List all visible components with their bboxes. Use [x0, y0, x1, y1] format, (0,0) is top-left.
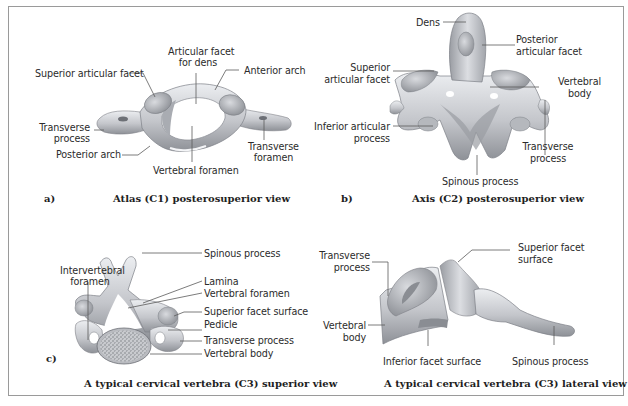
label-transverse-foramen-line2: foramen [246, 152, 301, 163]
label-transverse-process-line1: Transverse [30, 122, 90, 133]
label-vertebral-foramen: Vertebral foramen [153, 165, 239, 176]
panel-letter-a: a) [44, 193, 55, 204]
label-inferior-articular-process-line1: Inferior articular [310, 121, 390, 132]
label-transverse-process-line2: process [30, 133, 90, 144]
label-transverse-process: Transverse process [204, 335, 294, 346]
label-vertebral-body-line1: Vertebral [558, 76, 601, 87]
caption-c3-superior: A typical cervical vertebra (C3) superio… [84, 378, 337, 389]
label-vertebral-body: Vertebral body [204, 348, 273, 359]
label-dens: Dens [416, 17, 440, 28]
label-spinous-process: Spinous process [512, 356, 588, 367]
label-articular-facet-for-dens-line2: for dens [168, 57, 228, 68]
label-superior-facet-surface: Superior facet surface [204, 306, 308, 317]
label-pedicle: Pedicle [204, 319, 237, 330]
label-anterior-arch: Anterior arch [244, 65, 305, 76]
label-superior-articular-facet-line1: Superior [320, 62, 390, 73]
panel-letter-b: b) [341, 193, 353, 204]
label-superior-facet-surface-line1: Superior facet [518, 242, 584, 253]
label-superior-articular-facet: Superior articular facet [35, 68, 144, 79]
caption-c3-lateral: A typical cervical vertebra (C3) lateral… [384, 378, 627, 389]
label-inferior-articular-process-line2: process [310, 133, 390, 144]
label-intervertebral-foramen-line2: foramen [60, 276, 120, 287]
label-superior-facet-surface-line2: surface [518, 254, 553, 265]
panel-letter-c: c) [46, 353, 57, 364]
caption-atlas: Atlas (C1) posterosuperior view [113, 193, 290, 204]
label-posterior-articular-facet-line1: Posterior [516, 34, 558, 45]
label-intervertebral-foramen-line1: Intervertebral [60, 265, 120, 276]
label-lamina: Lamina [204, 276, 239, 287]
label-transverse-foramen-line1: Transverse [246, 141, 301, 152]
label-transverse-process-line2: process [518, 153, 578, 164]
label-transverse-process-line1: Transverse [518, 141, 578, 152]
label-articular-facet-for-dens-line1: Articular facet [168, 46, 228, 57]
label-inferior-facet-surface: Inferior facet surface [383, 356, 481, 367]
label-superior-articular-facet-line2: articular facet [320, 74, 390, 85]
label-posterior-arch: Posterior arch [56, 149, 121, 160]
label-transverse-process-line2: process [310, 262, 370, 273]
label-transverse-process-line1: Transverse [310, 250, 370, 261]
label-posterior-articular-facet-line2: articular facet [516, 46, 582, 57]
label-spinous-process: Spinous process [204, 248, 280, 259]
label-spinous-process: Spinous process [442, 176, 518, 187]
label-vertebral-body-line2: body [310, 332, 366, 343]
label-vertebral-foramen: Vertebral foramen [204, 288, 290, 299]
caption-axis: Axis (C2) posterosuperior view [412, 193, 584, 204]
label-vertebral-body-line2: body [568, 88, 591, 99]
label-vertebral-body-line1: Vertebral [310, 320, 366, 331]
